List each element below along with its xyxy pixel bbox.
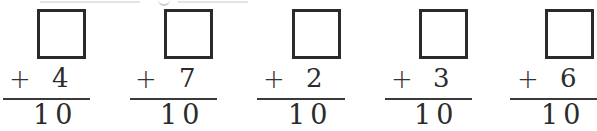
answer-box[interactable]	[545, 9, 594, 59]
addend: 6	[560, 63, 577, 93]
plus-sign: +	[517, 64, 539, 94]
sum: 10	[541, 99, 585, 131]
addition-problem-5: + 6 10	[0, 0, 597, 131]
